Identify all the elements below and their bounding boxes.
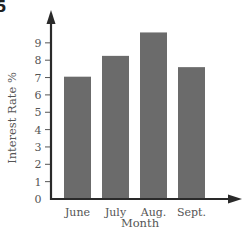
y-tick-label: 0 <box>35 193 42 206</box>
y-tick-label: 8 <box>35 54 42 67</box>
y-tick-label: 3 <box>35 141 42 154</box>
y-axis-arrow-icon <box>47 10 56 24</box>
x-tick-label: Sept. <box>177 206 206 219</box>
y-tick-label: 9 <box>35 37 42 50</box>
y-tick-label: 4 <box>35 124 42 137</box>
y-tick-label: 1 <box>35 176 42 189</box>
bar-chart: 0123456789 JuneJulyAug.Sept. Interest Ra… <box>0 0 243 231</box>
y-axis-ticks: 0123456789 <box>35 37 52 206</box>
x-axis-title: Month <box>121 216 160 230</box>
y-tick-label: 7 <box>35 72 42 85</box>
y-axis-title: Interest Rate % <box>5 72 19 164</box>
bar-sept <box>178 67 205 199</box>
x-tick-label: June <box>64 206 90 219</box>
bars-group <box>64 32 205 199</box>
y-tick-label: 2 <box>35 158 42 171</box>
bar-june <box>64 77 91 199</box>
bar-july <box>102 56 129 199</box>
bar-aug <box>140 32 167 199</box>
y-tick-label: 6 <box>35 89 42 102</box>
y-tick-label: 5 <box>35 106 42 119</box>
x-axis-arrow-icon <box>228 195 242 204</box>
